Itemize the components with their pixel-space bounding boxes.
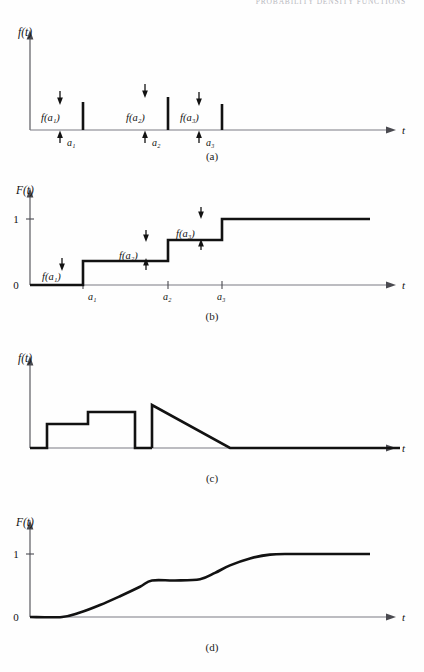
panel-d-ogive-curve: [30, 554, 370, 617]
panel-a-x-axis-label: t: [402, 124, 406, 136]
panel-c-caption: (c): [0, 472, 424, 484]
panel-b: F(t) t 1 0 a₁ a₂ a₃: [0, 180, 424, 305]
panel-b-tick-label-1: a₁: [88, 291, 96, 302]
panel-b-tick-label-3: a₃: [217, 291, 226, 302]
panel-a-value-label-2: f(a₂): [126, 112, 145, 124]
panel-a-value-label-1: f(a₁): [41, 112, 60, 124]
panel-a-y-axis: [27, 30, 34, 130]
panel-c-x-axis-label: t: [402, 442, 406, 454]
panel-b-caption: (b): [0, 310, 424, 322]
panel-b-jump-label-3: f(a₃): [176, 228, 195, 240]
panel-c-y-axis-label: f(t): [18, 352, 32, 365]
panel-d-x-axis: [30, 613, 396, 620]
panel-a-x-axis: [30, 126, 396, 133]
panel-a: f(t) t: [0, 22, 424, 152]
panel-d-ytick-label-1: 1: [13, 548, 19, 560]
panel-c-y-axis: [27, 356, 34, 448]
panel-b-jump-label-2: f(a₂): [119, 250, 138, 262]
panel-b-x-axis: [30, 281, 396, 288]
panel-b-staircase-curve: [30, 219, 370, 285]
running-head: PROBABILITY DENSITY FUNCTIONS: [256, 0, 406, 6]
panel-b-y-axis-label: F(t): [15, 184, 34, 197]
panel-a-caption: (a): [0, 150, 424, 162]
panel-b-y-axis: [27, 188, 34, 285]
panel-d: F(t) t 1 0: [0, 512, 424, 637]
panel-a-tick-label-1: a₁: [67, 137, 75, 148]
panel-b-x-axis-label: t: [402, 279, 406, 291]
panel-b-jump-label-1: f(a₁): [42, 271, 61, 283]
panel-d-ytick-label-0: 0: [13, 611, 19, 623]
figure-page: PROBABILITY DENSITY FUNCTIONS f(t) t: [0, 0, 424, 672]
panel-d-x-axis-label: t: [402, 611, 406, 623]
panel-b-tick-label-2: a₂: [163, 291, 172, 302]
panel-a-tick-label-3: a₃: [206, 137, 215, 148]
panel-c-density-steps: [30, 412, 152, 448]
panel-c-density-ramp: [152, 405, 400, 448]
panel-a-value-label-3: f(a₃): [180, 112, 199, 124]
panel-a-tick-label-2: a₂: [152, 137, 161, 148]
panel-c: f(t) t: [0, 348, 424, 468]
panel-b-ytick-label-1: 1: [13, 213, 19, 225]
panel-b-ytick-label-0: 0: [13, 279, 19, 291]
panel-d-caption: (d): [0, 641, 424, 653]
panel-a-y-axis-label: f(t): [18, 26, 32, 39]
panel-d-y-axis-label: F(t): [15, 516, 34, 529]
panel-d-y-axis: [27, 520, 34, 617]
panel-a-impulses: [83, 97, 222, 130]
